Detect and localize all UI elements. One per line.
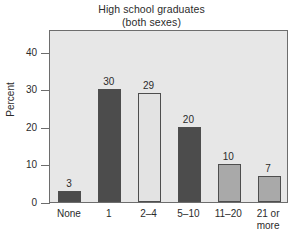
bar [58,191,81,202]
bar-value-label: 3 [49,179,89,189]
x-tick-label-line: 21 or [257,208,280,219]
bar [98,89,121,202]
y-tick-mark [41,203,50,204]
bar [138,93,161,202]
bar [258,176,281,202]
y-tick-label: 0 [10,198,37,208]
x-tick-label-line: None [57,208,81,219]
x-tick-label-line: 2–4 [140,208,157,219]
bar-value-label: 30 [89,77,129,87]
x-tick-label: 21 ormore [238,208,298,231]
x-tick-label-line: 1 [106,208,112,219]
chart-figure: High school graduates (both sexes) Perce… [0,0,303,240]
bar-value-label: 7 [248,164,288,174]
y-tick-label: 20 [10,123,37,133]
chart-title: High school graduates (both sexes) [0,3,303,28]
bar [218,164,241,202]
bar-value-label: 29 [129,81,169,91]
y-tick-label: 40 [10,48,37,58]
x-tick-label-line: 5–10 [177,208,199,219]
bar-value-label: 10 [208,152,248,162]
chart-title-line-1: High school graduates [0,3,303,16]
y-tick-label: 10 [10,160,37,170]
bar [178,127,201,202]
x-tick-label-line: more [238,220,298,232]
y-tick-label: 30 [10,85,37,95]
chart-title-line-2: (both sexes) [0,16,303,29]
bar-value-label: 20 [168,115,208,125]
